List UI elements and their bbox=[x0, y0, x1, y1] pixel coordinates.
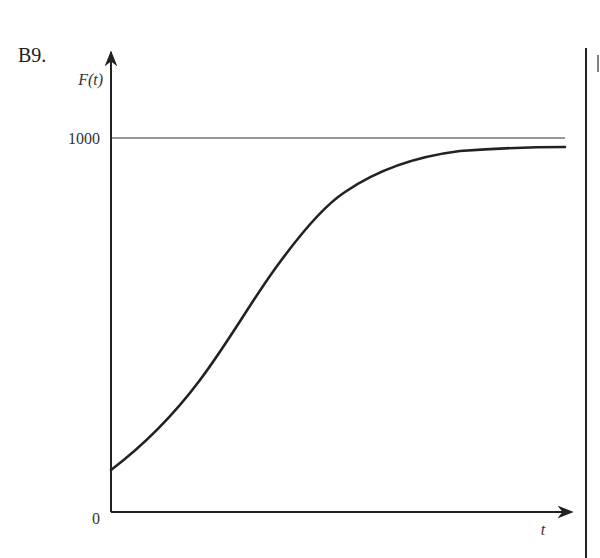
y-axis-label: F(t) bbox=[77, 71, 103, 89]
y-tick-0: 0 bbox=[92, 510, 100, 527]
x-axis-label: t bbox=[541, 521, 546, 538]
chart: 1000 0 F(t) t bbox=[0, 0, 600, 558]
y-tick-1000: 1000 bbox=[68, 130, 100, 147]
logistic-curve bbox=[111, 147, 565, 470]
